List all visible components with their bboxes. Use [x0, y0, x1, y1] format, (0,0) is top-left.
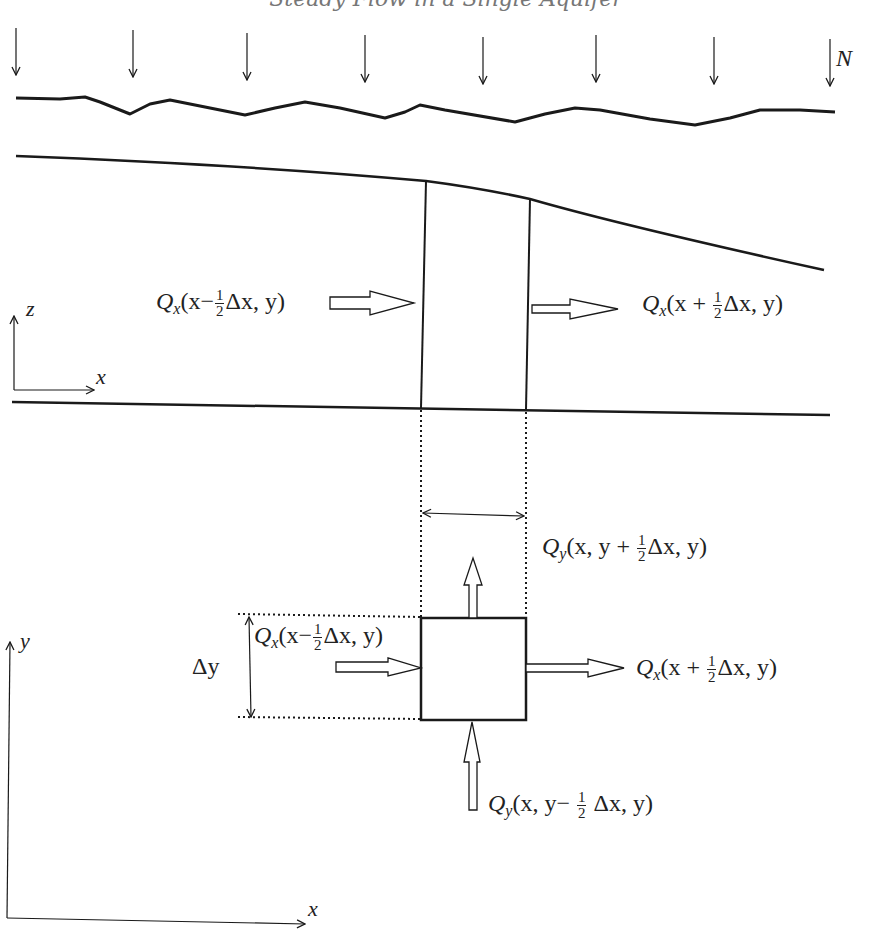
qx-out-label: Qx(x + 12Δx, y): [636, 654, 777, 685]
xy-axes: [7, 642, 305, 924]
qy-in-arrow-icon: [464, 722, 480, 810]
qx-in-label: Qx(x−12Δx, y): [254, 622, 383, 653]
x-axis-label-cross-section: x: [96, 366, 106, 388]
qx-out-arrow-icon: [526, 659, 624, 677]
outflow-arrow-icon: [532, 299, 618, 319]
qy-bottom-label: Qy(x, y− 12 Δx, y): [488, 790, 653, 821]
xz-axes: [14, 316, 94, 390]
column-left-line: [421, 181, 426, 408]
inflow-arrow-icon: [330, 291, 414, 315]
column-right-line: [526, 199, 530, 410]
delta-y-dimension-icon: [249, 617, 251, 717]
x-axis-label-plan-view: x: [308, 898, 318, 920]
inflow-label: Qx(x−12Δx, y): [156, 288, 285, 319]
qx-in-arrow-icon: [336, 658, 421, 676]
delta-x-dimension-icon: [423, 513, 524, 516]
y-axis-label: y: [20, 630, 30, 652]
qy-out-arrow-icon: [464, 558, 482, 618]
qy-top-label: Qy(x, y + 12Δx, y): [542, 533, 707, 564]
recharge-arrows: [16, 28, 830, 86]
z-axis-label: z: [26, 298, 35, 320]
aquifer-diagram: [0, 0, 892, 930]
recharge-label: N: [836, 46, 852, 70]
delta-y-label: Δy: [192, 654, 219, 678]
control-volume-box: [421, 618, 526, 720]
ground-surface-line: [16, 97, 835, 125]
outflow-label: Qx(x + 12Δx, y): [642, 290, 783, 321]
water-table-line: [16, 156, 824, 270]
